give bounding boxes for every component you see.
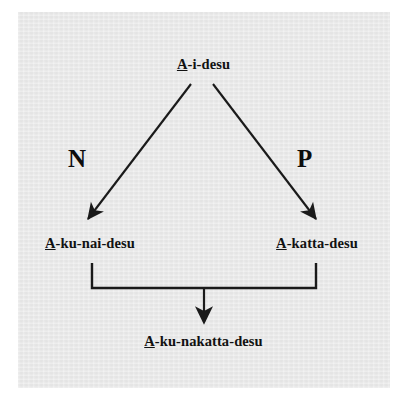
node-top-suffix: -i-desu — [187, 56, 230, 72]
node-left-stem: A — [45, 235, 56, 251]
node-bottom-stem: A — [144, 333, 155, 349]
node-negative-nonpast: A-ku-nai-desu — [14, 235, 166, 252]
node-affirmative-nonpast: A-i-desu — [0, 56, 407, 73]
edge-label-negative: N — [68, 145, 86, 173]
node-left-suffix: -ku-nai-desu — [56, 235, 135, 251]
node-right-stem: A — [276, 235, 287, 251]
node-bottom-suffix: -ku-nakatta-desu — [155, 333, 263, 349]
node-right-suffix: -katta-desu — [287, 235, 358, 251]
node-top-stem: A — [177, 56, 188, 72]
node-negative-past: A-ku-nakatta-desu — [0, 333, 407, 350]
node-affirmative-past: A-katta-desu — [243, 235, 391, 252]
edge-negative-arrow — [88, 84, 191, 219]
merge-bracket — [92, 263, 316, 288]
diagram-figure: A-i-desu A-ku-nai-desu A-katta-desu A-ku… — [0, 0, 407, 401]
edge-label-past: P — [297, 145, 312, 173]
